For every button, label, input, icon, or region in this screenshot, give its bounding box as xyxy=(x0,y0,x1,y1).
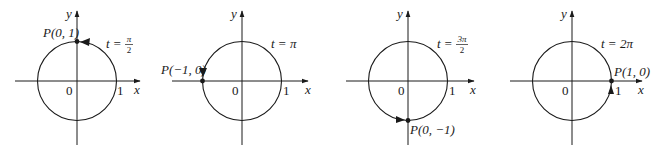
y-axis-label: y xyxy=(559,6,567,21)
unit-label: 1 xyxy=(117,83,124,98)
direction-arrow-icon xyxy=(396,116,405,123)
point-label: P(0, −1) xyxy=(409,122,455,137)
direction-arrow-icon xyxy=(80,38,90,46)
unit-label: 1 xyxy=(449,83,456,98)
unit-label: 1 xyxy=(615,83,622,98)
panel-t-pi-over-2: y x 0 1 P(0, 1) t = π 2 xyxy=(15,6,140,145)
point-p-dot xyxy=(609,79,614,84)
x-axis-label: x xyxy=(133,82,140,97)
t-label: t = 2π xyxy=(601,36,633,51)
direction-arrow-icon xyxy=(608,85,614,94)
unit-circle-figure: y x 0 1 P(0, 1) t = π 2 y x 0 1 P(−1, 0)… xyxy=(0,0,653,153)
origin-label: 0 xyxy=(66,83,73,98)
t-denominator: 2 xyxy=(127,45,132,55)
origin-label: 0 xyxy=(398,83,405,98)
point-label: P(−1, 0) xyxy=(160,62,206,77)
t-label: t = π xyxy=(271,36,297,51)
point-label: P(1, 0) xyxy=(613,64,650,79)
y-axis-label: y xyxy=(64,6,72,21)
t-denominator: 2 xyxy=(460,45,465,55)
origin-label: 0 xyxy=(562,83,569,98)
y-axis-label: y xyxy=(229,6,237,21)
x-axis-label: x xyxy=(637,82,644,97)
y-axis-label: y xyxy=(395,6,403,21)
point-p-dot xyxy=(200,79,205,84)
point-label: P(0, 1) xyxy=(42,25,79,40)
panel-t-3pi-over-2: y x 0 1 P(0, −1) t = 3π 2 xyxy=(346,6,476,145)
origin-label: 0 xyxy=(232,83,239,98)
t-prefix: t = xyxy=(437,36,453,51)
unit-label: 1 xyxy=(283,83,290,98)
x-axis-label: x xyxy=(304,82,311,97)
t-numerator: π xyxy=(127,34,132,44)
t-prefix: t = xyxy=(106,36,122,51)
panel-t-pi: y x 0 1 P(−1, 0) t = π xyxy=(160,6,311,145)
x-axis-label: x xyxy=(469,82,476,97)
panel-t-2pi: y x 0 1 P(1, 0) t = 2π xyxy=(510,6,650,145)
t-numerator: 3π xyxy=(456,34,467,44)
